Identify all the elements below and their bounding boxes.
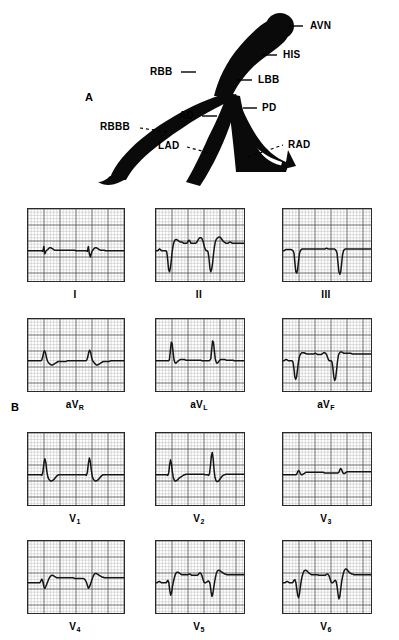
panel-a-letter: A (85, 92, 93, 103)
ecg-strip-ii: II (155, 208, 243, 306)
ecg-strip-v5: V5 (155, 540, 243, 638)
lead-label-avf: aVF (282, 400, 370, 410)
lead-label-v6: V6 (282, 622, 370, 632)
ecg-grid-iii (282, 208, 372, 282)
ecg-grid-v5 (155, 540, 245, 614)
ecg-strip-v6: V6 (282, 540, 370, 638)
lead-label-v5: V5 (155, 622, 243, 632)
panel-b-ecg-strips: I II III aVR aVL aVF (0, 200, 399, 640)
lead-label-v2: V2 (155, 514, 243, 524)
lead-label-base: aV (66, 399, 79, 410)
ecg-grid-ii (155, 208, 245, 282)
conduction-tree-shape (98, 13, 296, 186)
lead-label-v4: V4 (27, 622, 123, 632)
panel-b-letter: B (11, 402, 19, 413)
ecg-grid-v1 (27, 432, 125, 506)
label-ad: AD (179, 111, 194, 121)
lead-label-subscript: 2 (200, 518, 204, 525)
label-rad: RAD (288, 140, 311, 150)
lead-label-subscript: L (203, 404, 208, 411)
ecg-grid-avf (282, 318, 372, 392)
lead-label-subscript: 3 (327, 518, 331, 525)
ecg-strip-avl: aVL (155, 318, 243, 416)
lead-label-i: I (27, 290, 123, 300)
label-lbb: LBB (258, 75, 279, 85)
lead-label-ii: II (155, 290, 243, 300)
ecg-grid-avr (27, 318, 125, 392)
ecg-strip-v4: V4 (27, 540, 123, 638)
lead-label-subscript: R (79, 404, 84, 411)
ecg-strip-v1: V1 (27, 432, 123, 530)
ecg-grid-v4 (27, 540, 125, 614)
label-pd: PD (262, 103, 277, 113)
label-his: HIS (283, 50, 301, 60)
label-rbb: RBB (150, 67, 173, 77)
lead-label-iii: III (282, 290, 370, 300)
lead-label-subscript: 6 (327, 626, 331, 633)
lead-label-base: aV (190, 399, 203, 410)
lead-label-subscript: 1 (76, 518, 80, 525)
lead-label-v1: V1 (27, 514, 123, 524)
ecg-grid-avl (155, 318, 245, 392)
lead-label-subscript: F (330, 404, 335, 411)
label-avn: AVN (310, 21, 331, 31)
ecg-grid-v2 (155, 432, 245, 506)
conduction-system-illustration (0, 0, 399, 200)
lead-label-avl: aVL (155, 400, 243, 410)
ecg-conduction-figure: A AVN HIS LBB PD RAD RBB AD RBBB LAD I I… (0, 0, 399, 640)
label-rbbb: RBBB (100, 122, 130, 132)
ecg-strip-avr: aVR (27, 318, 123, 416)
ecg-strip-v2: V2 (155, 432, 243, 530)
ecg-strip-v3: V3 (282, 432, 370, 530)
lead-label-subscript: 5 (200, 626, 204, 633)
ecg-grid-i (27, 208, 125, 282)
lead-label-avr: aVR (27, 400, 123, 410)
ecg-strip-iii: III (282, 208, 370, 306)
ecg-grid-v6 (282, 540, 372, 614)
lead-label-subscript: 4 (76, 626, 80, 633)
ecg-strip-avf: aVF (282, 318, 370, 416)
lead-label-base: aV (317, 399, 330, 410)
ecg-grid-v3 (282, 432, 372, 506)
label-lad: LAD (158, 141, 179, 151)
lead-label-v3: V3 (282, 514, 370, 524)
ecg-strip-i: I (27, 208, 123, 306)
panel-a-conduction-diagram: A AVN HIS LBB PD RAD RBB AD RBBB LAD (0, 0, 399, 200)
